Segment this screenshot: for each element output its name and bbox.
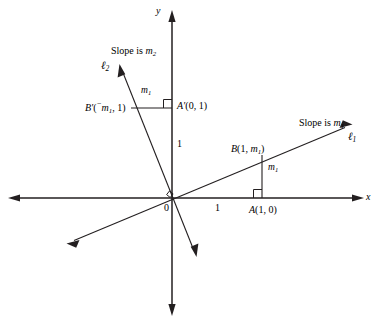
point-label-B: B(1, m1) [231, 144, 264, 156]
slope-annotation-l2-prefix: Slope is [111, 45, 145, 56]
point-label-B-open: (1, [237, 143, 250, 154]
figure-canvas: y x 0 1 1 A(1, 0) B(1, m1) A′(0, 1) B′(⁻… [0, 0, 378, 324]
point-label-B-prime-close: , 1) [112, 102, 125, 113]
x-axis-arrow-left-icon [8, 194, 20, 201]
point-label-A-coords: (1, 0) [255, 204, 277, 215]
axes-group [8, 10, 364, 316]
segment-label-vertical-m1-sub: 1 [275, 166, 278, 173]
y-axis-arrow-down-icon [168, 304, 175, 316]
segment-label-horizontal-m1-var: m [141, 85, 148, 95]
right-angle-marker-A-icon [254, 190, 263, 199]
segment-label-horizontal-m1: m1 [141, 86, 151, 96]
point-label-A-prime-coords: (0, 1) [185, 100, 207, 111]
line-label-l1: ℓ1 [348, 131, 356, 144]
line-l2 [123, 72, 194, 250]
point-label-B-var: m [250, 143, 257, 154]
segment-label-vertical-m1: m1 [268, 163, 278, 173]
slope-annotation-l2: Slope is m2 [111, 46, 156, 58]
slope-annotation-l2-sub: 2 [153, 50, 156, 57]
slope-annotation-l1-var: m [333, 117, 340, 128]
x-axis-arrow-right-icon [352, 194, 364, 201]
line-label-l2: ℓ2 [101, 60, 109, 73]
slope-annotation-l2-var: m [145, 45, 152, 56]
point-label-B-prime-var: m [102, 102, 109, 113]
segment-label-vertical-m1-var: m [268, 162, 275, 172]
coordinate-diagram-svg [0, 0, 378, 324]
right-angle-marker-Aprime-icon [164, 100, 173, 109]
line-label-l1-sub: 1 [353, 135, 357, 144]
point-label-B-prime: B′(⁻m1, 1) [85, 101, 125, 115]
point-label-A: A(1, 0) [249, 205, 277, 215]
segment-label-horizontal-m1-sub: 1 [148, 89, 151, 96]
line-l1-arrow-lower-left-icon [67, 240, 80, 248]
x-axis-label: x [366, 192, 370, 202]
slope-annotation-l1-prefix: Slope is [299, 117, 333, 128]
line-l1 [74, 128, 345, 241]
slope-annotation-l1-sub: 1 [341, 122, 344, 129]
origin-label: 0 [164, 203, 169, 213]
line-l1-group [67, 120, 353, 247]
y-axis-label: y [156, 6, 160, 16]
line-l2-group [118, 64, 199, 257]
point-label-B-close: ) [261, 143, 264, 154]
y-axis-unit-tick-label: 1 [177, 139, 182, 149]
x-axis-unit-tick-label: 1 [215, 203, 220, 213]
slope-annotation-l1: Slope is m1 [299, 118, 344, 130]
y-axis-arrow-up-icon [168, 10, 175, 22]
point-label-A-prime: A′(0, 1) [177, 101, 207, 111]
line-label-l2-sub: 2 [106, 64, 110, 73]
